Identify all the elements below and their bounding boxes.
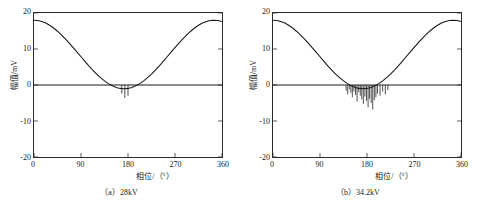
- pulse-bars-a: [122, 85, 128, 98]
- y-axis-ticks-a: 20 10 0 -10 -20: [0, 12, 31, 158]
- x-tick-label: 0: [270, 160, 274, 169]
- chart-panel-b: 幅值/mV 20 10 0 -10 -20: [239, 0, 477, 204]
- panel-caption-a: （a）28kV: [0, 186, 238, 197]
- x-axis-label-a: 相位/（°）: [0, 170, 238, 181]
- y-tick-label: 20: [1, 8, 31, 16]
- x-tick-label: 90: [316, 160, 324, 169]
- plot-area-b: [272, 12, 462, 158]
- y-tick-label: -10: [1, 118, 31, 126]
- figure-container: 幅值/mV 20 10 0 -10 -20: [0, 0, 477, 204]
- x-tick-label: 180: [122, 160, 134, 169]
- x-tick-label: 270: [170, 160, 182, 169]
- plot-svg-b: [273, 13, 461, 157]
- y-tick-label: -10: [240, 118, 270, 126]
- sine-curve-b: [273, 20, 461, 89]
- y-tick-label: -20: [240, 154, 270, 162]
- y-tick-label: -20: [1, 154, 31, 162]
- y-tick-label: 10: [1, 45, 31, 53]
- panel-caption-b: （b）34.2kV: [239, 186, 477, 197]
- x-axis-label-b: 相位/（°）: [239, 170, 477, 181]
- y-tick-label: 20: [240, 8, 270, 16]
- y-tick-label: 0: [1, 81, 31, 89]
- plot-area-a: [33, 12, 223, 158]
- y-axis-ticks-b: 20 10 0 -10 -20: [239, 12, 270, 158]
- y-tick-label: 10: [240, 45, 270, 53]
- x-tick-label: 360: [456, 160, 468, 169]
- y-tick-label: 0: [240, 81, 270, 89]
- x-tick-label: 0: [31, 160, 35, 169]
- sine-curve-a: [34, 20, 222, 89]
- x-tick-label: 90: [77, 160, 85, 169]
- x-tick-label: 360: [217, 160, 229, 169]
- chart-panel-a: 幅值/mV 20 10 0 -10 -20: [0, 0, 238, 204]
- x-tick-label: 180: [361, 160, 373, 169]
- plot-svg-a: [34, 13, 222, 157]
- x-tick-label: 270: [409, 160, 421, 169]
